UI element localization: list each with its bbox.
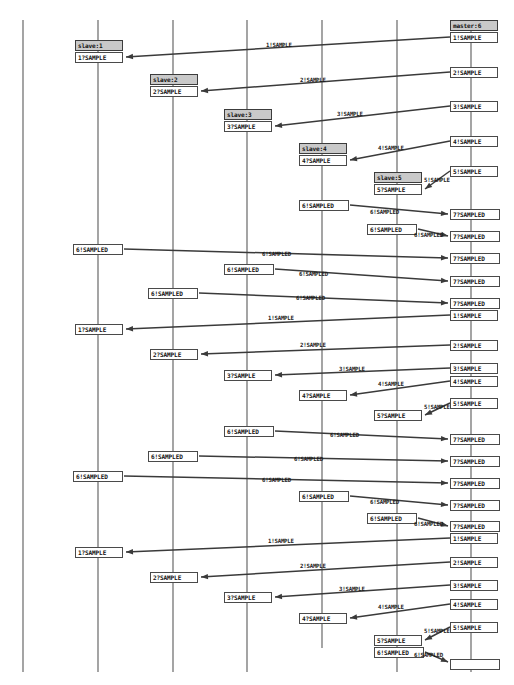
uml-sequence-diagram: master:6slave:1slave:2slave:3slave:4slav… <box>0 0 514 685</box>
event-box[interactable]: 6!SAMPLED <box>73 244 123 255</box>
message-label: 1!SAMPLE <box>268 315 294 322</box>
message-label: 1!SAMPLE <box>266 42 292 49</box>
event-box[interactable]: 6!SAMPLED <box>367 513 417 524</box>
event-box[interactable]: 6!SAMPLED <box>224 264 274 275</box>
message-label: 6!SAMPLED <box>262 477 291 484</box>
event-box[interactable]: 2?SAMPLE <box>150 572 198 583</box>
event-box[interactable]: 4!SAMPLE <box>450 136 498 147</box>
message-label: 6!SAMPLED <box>414 232 443 239</box>
event-box[interactable]: 5?SAMPLE <box>374 410 422 421</box>
arrowhead-icon <box>441 480 448 485</box>
event-box[interactable]: 3!SAMPLE <box>450 580 498 591</box>
event-box[interactable]: 1?SAMPLE <box>75 324 123 335</box>
message-label: 4!SAMPLE <box>378 145 404 152</box>
message-label: 6!SAMPLED <box>414 521 443 528</box>
participant-head-slave3[interactable]: slave:3 <box>224 109 272 120</box>
message-label: 6!SAMPLED <box>370 499 399 506</box>
event-box[interactable] <box>450 659 500 670</box>
event-box[interactable]: 3?SAMPLE <box>224 370 272 381</box>
message-label: 6!SAMPLED <box>262 251 291 258</box>
message-label: 6!SAMPLED <box>414 652 443 659</box>
arrowhead-icon <box>441 436 448 441</box>
message-label: 6!SAMPLED <box>294 456 323 463</box>
event-box[interactable]: 7?SAMPLED <box>450 253 500 264</box>
event-box[interactable]: 6!SAMPLED <box>148 288 198 299</box>
event-box[interactable]: 2!SAMPLE <box>450 340 498 351</box>
arrowhead-icon <box>441 458 448 463</box>
event-box[interactable]: 7?SAMPLED <box>450 456 500 467</box>
event-box[interactable]: 5!SAMPLE <box>450 398 498 409</box>
message-label: 2!SAMPLE <box>300 563 326 570</box>
event-box[interactable]: 7?SAMPLED <box>450 209 500 220</box>
message-label: 3!SAMPLE <box>339 586 365 593</box>
diagram-canvas <box>0 0 514 685</box>
event-box[interactable]: 5?SAMPLE <box>374 635 422 646</box>
event-box[interactable]: 2?SAMPLE <box>150 349 198 360</box>
arrowhead-icon <box>425 634 432 640</box>
message-arrow <box>275 431 448 439</box>
arrowhead-icon <box>275 594 282 599</box>
message-label: 5!SAMPLE <box>424 177 450 184</box>
event-box[interactable]: 7?SAMPLED <box>450 276 500 287</box>
arrowhead-icon <box>275 372 282 377</box>
event-box[interactable]: 1!SAMPLE <box>450 533 498 544</box>
event-box[interactable]: 6!SAMPLED <box>299 491 349 502</box>
event-box[interactable]: 4!SAMPLE <box>450 376 498 387</box>
event-box[interactable]: 1?SAMPLE <box>75 52 123 63</box>
event-box[interactable]: 3?SAMPLE <box>224 121 272 132</box>
arrowhead-icon <box>441 255 448 260</box>
arrowhead-icon <box>126 54 133 59</box>
event-box[interactable]: 3!SAMPLE <box>450 363 498 374</box>
event-box[interactable]: 6!SAMPLED <box>299 200 349 211</box>
event-box[interactable]: 2!SAMPLE <box>450 557 498 568</box>
arrowhead-icon <box>201 574 208 579</box>
arrowhead-icon <box>126 549 133 554</box>
event-box[interactable]: 6!SAMPLED <box>367 224 417 235</box>
message-label: 5!SAMPLE <box>424 628 450 635</box>
event-box[interactable]: 7?SAMPLED <box>450 434 500 445</box>
message-label: 2!SAMPLE <box>300 77 326 84</box>
arrowhead-icon <box>201 351 208 356</box>
message-label: 4!SAMPLE <box>378 604 404 611</box>
event-box[interactable]: 3!SAMPLE <box>450 101 498 112</box>
message-label: 1!SAMPLE <box>268 538 294 545</box>
event-box[interactable]: 7?SAMPLED <box>450 231 500 242</box>
event-box[interactable]: 5!SAMPLE <box>450 166 498 177</box>
event-box[interactable]: 4?SAMPLE <box>299 613 347 624</box>
event-box[interactable]: 6!SAMPLED <box>148 451 198 462</box>
message-label: 2!SAMPLE <box>300 342 326 349</box>
event-box[interactable]: 7?SAMPLED <box>450 521 500 532</box>
message-label: 6!SAMPLED <box>299 271 328 278</box>
message-label: 3!SAMPLE <box>337 111 363 118</box>
participant-head-slave4[interactable]: slave:4 <box>299 143 347 154</box>
arrowhead-icon <box>441 278 448 283</box>
event-box[interactable]: 6!SAMPLED <box>73 471 123 482</box>
participant-head-master[interactable]: master:6 <box>450 20 498 31</box>
participant-head-slave5[interactable]: slave:5 <box>374 172 422 183</box>
message-label: 3!SAMPLE <box>339 366 365 373</box>
event-box[interactable]: 6!SAMPLED <box>224 426 274 437</box>
event-box[interactable]: 2?SAMPLE <box>150 86 198 97</box>
event-box[interactable]: 4?SAMPLE <box>299 390 347 401</box>
message-label: 5!SAMPLE <box>424 404 450 411</box>
event-box[interactable]: 4!SAMPLE <box>450 599 498 610</box>
event-box[interactable]: 5!SAMPLE <box>450 622 498 633</box>
event-box[interactable]: 1?SAMPLE <box>75 547 123 558</box>
message-arrow <box>199 456 448 461</box>
event-box[interactable]: 2!SAMPLE <box>450 67 498 78</box>
event-box[interactable]: 4?SAMPLE <box>299 155 347 166</box>
arrowhead-icon <box>350 614 357 619</box>
participant-head-slave1[interactable]: slave:1 <box>75 40 123 51</box>
event-box[interactable]: 7?SAMPLED <box>450 500 500 511</box>
event-box[interactable]: 7?SAMPLED <box>450 298 500 309</box>
participant-head-slave2[interactable]: slave:2 <box>150 74 198 85</box>
message-label: 6!SAMPLED <box>296 295 325 302</box>
arrowhead-icon <box>126 326 133 331</box>
event-box[interactable]: 7?SAMPLED <box>450 478 500 489</box>
event-box[interactable]: 5?SAMPLE <box>374 184 422 195</box>
event-box[interactable]: 1!SAMPLE <box>450 32 498 43</box>
message-label: 6!SAMPLED <box>370 209 399 216</box>
event-box[interactable]: 3?SAMPLE <box>224 592 272 603</box>
event-box[interactable]: 1!SAMPLE <box>450 310 498 321</box>
arrowhead-icon <box>441 300 448 305</box>
